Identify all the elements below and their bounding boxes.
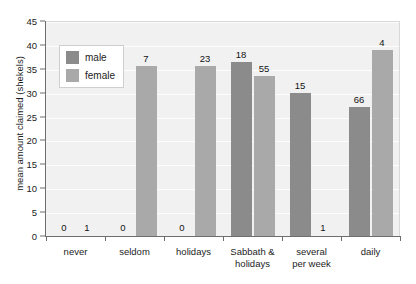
y-axis-tick-labels: 051015202530354045 [0, 0, 45, 284]
gridline [46, 118, 399, 119]
legend-label: male [85, 52, 107, 63]
legend-item-male: male [66, 51, 115, 64]
bar-count-label: 7 [143, 53, 148, 64]
y-tick-label: 35 [26, 63, 37, 74]
x-category-label: several per week [292, 246, 331, 269]
x-category-label: never [64, 246, 88, 258]
x-category-label: Sabbath & holidays [230, 246, 274, 269]
bar-male-4 [290, 93, 311, 236]
bar-male-3 [231, 62, 252, 236]
gridline [46, 141, 399, 142]
bar-male-5 [349, 107, 370, 236]
y-tick-label: 25 [26, 111, 37, 122]
gridline [46, 189, 399, 190]
bar-count-label: 23 [200, 53, 211, 64]
y-tick-label: 10 [26, 183, 37, 194]
gridline [46, 165, 399, 166]
y-tick-label: 0 [32, 231, 37, 242]
x-axis-edge-tick [400, 236, 401, 241]
x-tick-mark [223, 236, 224, 241]
y-tick-label: 30 [26, 87, 37, 98]
legend: malefemale [59, 45, 124, 88]
legend-label: female [85, 70, 115, 81]
bar-count-label: 1 [320, 222, 325, 233]
legend-swatch-icon [66, 51, 79, 64]
legend-swatch-icon [66, 69, 79, 82]
bar-count-label: 0 [120, 222, 125, 233]
gridline [46, 22, 399, 23]
bar-count-label: 66 [354, 94, 365, 105]
bar-count-label: 18 [236, 49, 247, 60]
gridline [46, 213, 399, 214]
x-tick-mark [105, 236, 106, 241]
bar-count-label: 55 [259, 63, 270, 74]
bar-count-label: 15 [295, 80, 306, 91]
bar-female-5 [372, 50, 393, 236]
bar-count-label: 0 [179, 222, 184, 233]
y-tick-label: 45 [26, 16, 37, 27]
legend-item-female: female [66, 69, 115, 82]
bar-female-3 [254, 76, 275, 236]
y-tick-label: 5 [32, 207, 37, 218]
bar-female-1 [136, 66, 157, 236]
bar-count-label: 4 [379, 37, 384, 48]
y-tick-label: 20 [26, 135, 37, 146]
x-category-label: seldom [119, 246, 150, 258]
x-tick-mark [282, 236, 283, 241]
bar-count-label: 0 [61, 222, 66, 233]
x-axis-edge-tick [46, 236, 47, 241]
y-tick-label: 15 [26, 159, 37, 170]
x-tick-mark [341, 236, 342, 241]
x-category-label: holidays [176, 246, 211, 258]
y-tick-label: 40 [26, 39, 37, 50]
bar-chart-figure: mean amount claimed (shekels) 0510152025… [0, 0, 416, 284]
x-category-label: daily [361, 246, 381, 258]
bar-female-2 [195, 66, 216, 236]
bar-count-label: 1 [84, 222, 89, 233]
gridline [46, 94, 399, 95]
x-tick-mark [164, 236, 165, 241]
